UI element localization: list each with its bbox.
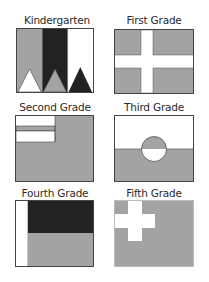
first-grade-flag-graphic — [115, 30, 193, 93]
flag-first-grade — [114, 29, 194, 94]
flag-third-grade — [114, 115, 194, 182]
flag-kindergarten — [16, 28, 94, 93]
flag-label-first-grade: First Grade — [109, 14, 199, 26]
fourth-grade-flag-graphic — [16, 201, 93, 266]
flag-label-kindergarten: Kindergarten — [12, 14, 102, 26]
flag-fourth-grade — [15, 200, 94, 267]
kindergarten-flag-graphic — [17, 29, 93, 92]
fifth-grade-flag-graphic — [115, 201, 193, 266]
flag-second-grade — [15, 115, 94, 182]
flag-fifth-grade — [114, 200, 194, 267]
flag-label-fifth-grade: Fifth Grade — [109, 187, 199, 199]
flag-label-third-grade: Third Grade — [109, 101, 199, 113]
flag-label-fourth-grade: Fourth Grade — [10, 187, 100, 199]
second-grade-flag-graphic — [16, 116, 93, 181]
third-grade-flag-graphic — [115, 116, 193, 181]
flag-label-second-grade: Second Grade — [10, 101, 100, 113]
